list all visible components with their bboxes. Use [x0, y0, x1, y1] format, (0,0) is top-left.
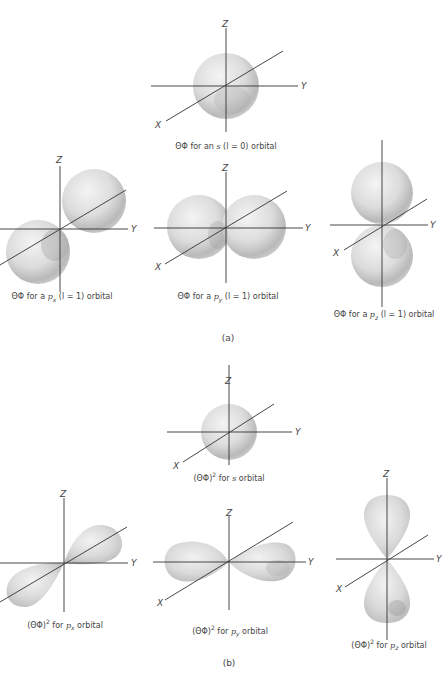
svg-text:X: X	[154, 262, 162, 272]
panel-label-a: (a)	[222, 333, 235, 343]
svg-text:Z: Z	[55, 155, 63, 165]
svg-text:Y: Y	[436, 554, 443, 564]
svg-text:Z: Z	[225, 508, 233, 518]
pz-orbital-diagram-a: Y X	[330, 140, 437, 307]
caption-a-s: ΘΦ for an s (l = 0) orbital	[175, 142, 277, 151]
py-orbital-diagram-b: Z Y X	[153, 508, 315, 610]
s-orbital-diagram-b: Z Y X	[167, 365, 302, 471]
svg-text:Y: Y	[308, 557, 315, 567]
svg-text:X: X	[332, 248, 340, 258]
py-orbital-diagram-a: Z Y X	[154, 163, 312, 283]
svg-text:Y: Y	[301, 81, 308, 91]
svg-text:Z: Z	[221, 19, 229, 29]
panel-label-b: (b)	[223, 658, 236, 668]
caption-b-px: (ΘΦ)2 for px orbital	[27, 618, 103, 631]
svg-text:Y: Y	[295, 427, 302, 437]
svg-text:Z: Z	[224, 376, 232, 386]
svg-text:Z: Z	[59, 489, 67, 499]
svg-text:X: X	[156, 598, 164, 608]
svg-text:Y: Y	[305, 223, 312, 233]
svg-text:Z: Z	[382, 469, 390, 479]
caption-b-pz: (ΘΦ)2 for pz orbital	[351, 638, 426, 651]
caption-b-s: (ΘΦ)2 for s orbital	[193, 471, 264, 483]
svg-text:X: X	[335, 584, 343, 594]
s-orbital-diagram-a: Z Y X	[151, 19, 308, 132]
pz-orbital-diagram-b: Z Y X	[335, 469, 443, 640]
caption-a-pz: ΘΦ for a pz (l = 1) orbital	[334, 310, 435, 321]
caption-a-px: ΘΦ for a px (l = 1) orbital	[12, 292, 113, 303]
px-orbital-diagram-b: Z Y	[0, 489, 138, 612]
svg-text:Y: Y	[430, 220, 437, 230]
caption-b-py: (ΘΦ)2 for py orbital	[192, 624, 268, 637]
caption-a-py: ΘΦ for a py (l = 1) orbital	[178, 292, 279, 303]
px-orbital-diagram-a: Z Y	[0, 155, 138, 292]
svg-text:X: X	[172, 461, 180, 471]
svg-text:X: X	[154, 120, 162, 130]
svg-text:Y: Y	[131, 224, 138, 234]
svg-text:Z: Z	[221, 163, 229, 173]
svg-text:Y: Y	[131, 558, 138, 568]
